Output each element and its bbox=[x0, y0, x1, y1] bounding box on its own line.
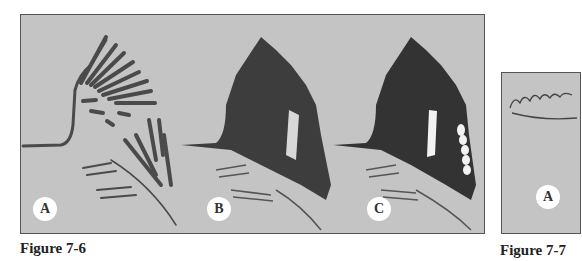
figure-7-7-frame: A bbox=[501, 72, 581, 234]
figure-7-6-frame: A B C bbox=[20, 14, 485, 234]
wing-shaded-b bbox=[181, 37, 331, 230]
panel-label-b: B bbox=[207, 197, 231, 221]
figure-7-7-illustration bbox=[502, 73, 582, 235]
figure-7-6-caption: Figure 7-6 bbox=[20, 240, 86, 257]
panel-label-a: A bbox=[536, 185, 560, 209]
panel-label-c: C bbox=[367, 197, 391, 221]
wing-shaded-c bbox=[333, 37, 476, 230]
figure-7-6-illustration bbox=[21, 15, 486, 235]
figure-7-7-caption: Figure 7-7 bbox=[500, 242, 566, 259]
panel-label-a: A bbox=[33, 197, 57, 221]
